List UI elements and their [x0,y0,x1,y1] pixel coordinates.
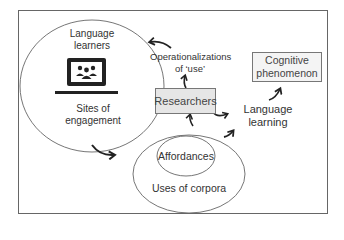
language-learning-label: Language learning [238,103,298,129]
cognitive-line2: phenomenon [256,67,317,80]
arrow-uses-to-researchers [190,115,193,126]
language-learners-label: Language learners [62,28,122,52]
researchers-box: Researchers [155,88,216,114]
operationalizations-line1: Operationalizations [150,51,230,63]
language-learning-line1: Language [238,103,298,116]
arrow-operationalizations-to-learners [150,42,171,48]
language-learners-line1: Language [62,28,122,40]
sites-line1: Sites of [55,103,131,115]
language-learning-line2: learning [238,116,298,129]
arrow-learning-to-cognitive [269,89,280,100]
cognitive-phenomenon-box: Cognitive phenomenon [252,52,322,82]
researchers-label: Researchers [154,95,216,107]
cognitive-line1: Cognitive [256,54,317,67]
operationalizations-line2: of ‘use’ [150,63,230,75]
sites-line2: engagement [55,115,131,127]
affordances-label: Affordances [152,150,220,162]
arrow-uses-to-language-learning [224,131,233,137]
arrow-researchers-to-operationalizations [184,76,186,88]
uses-of-corpora-ellipse [133,135,245,213]
language-learners-line2: learners [62,40,122,52]
sites-of-engagement-label: Sites of engagement [55,103,131,127]
operationalizations-label: Operationalizations of ‘use’ [150,51,230,75]
laptop-group-icon [55,58,118,94]
uses-of-corpora-label: Uses of corpora [145,182,233,194]
